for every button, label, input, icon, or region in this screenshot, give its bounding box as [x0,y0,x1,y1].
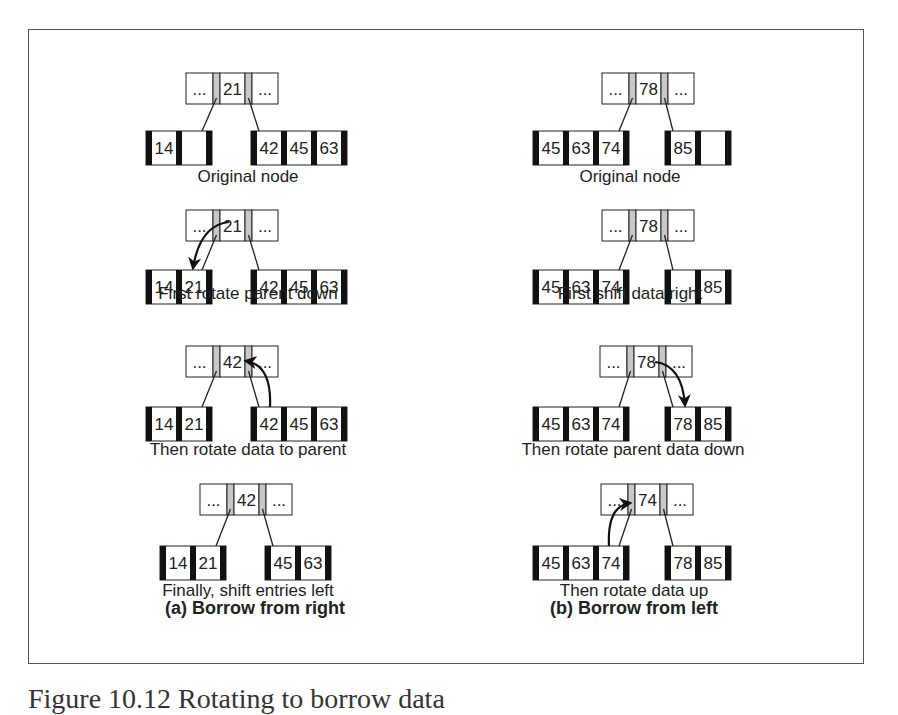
leaf-key: 21 [199,554,218,573]
ellipsis-key: ... [606,353,620,372]
left-child-node: 1421 [146,407,212,441]
right-child-node: 7885 [665,546,731,580]
right-child-node: 424563 [251,131,347,165]
ellipsis-key: ... [206,491,220,510]
right-child-node: 7885 [665,407,731,441]
parent-node: ...21... [186,210,278,241]
parent-key: 78 [637,353,656,372]
left-child-node: 456374 [533,131,629,165]
leaf-key: 85 [674,139,693,158]
ellipsis-key: ... [608,80,622,99]
step-3: ...78...4563747885 [533,346,731,441]
leaf-key: 78 [674,554,693,573]
right-child-node: 85 [665,131,731,165]
leaf-key: 14 [155,415,174,434]
step-label: Original node [197,167,298,187]
panel-title: (a) Borrow from right [165,598,345,619]
leaf-key: 45 [290,415,309,434]
ellipsis-key: ... [608,217,622,236]
step-4: ...42...14214563 [160,484,331,580]
ellipsis-key: ... [674,80,688,99]
parent-key: 42 [223,353,242,372]
panel-a: ...21...14424563...21...1421424563...42.… [146,73,347,580]
leaf-key: 78 [674,415,693,434]
parent-key: 42 [237,491,256,510]
leaf-key: 74 [602,139,621,158]
leaf-key: 14 [169,554,188,573]
leaf-key: 63 [572,415,591,434]
left-child-node: 14 [146,131,212,165]
left-child-node: 456374 [533,546,629,580]
step-label: Then rotate data to parent [150,440,347,460]
leaf-key: 74 [602,415,621,434]
leaf-key: 45 [290,139,309,158]
step-label: First shift data right [558,284,703,304]
ellipsis-key: ... [272,491,286,510]
ellipsis-key: ... [192,80,206,99]
parent-node: ...42... [200,484,292,515]
leaf-key: 14 [155,139,174,158]
ellipsis-key: ... [673,491,687,510]
leaf-key: 63 [320,139,339,158]
parent-key: 74 [638,491,657,510]
step-label: Original node [579,167,680,187]
figure-caption: Figure 10.12 Rotating to borrow data [28,683,445,715]
leaf-key: 42 [260,415,279,434]
parent-node: ...78... [602,210,694,241]
leaf-key: 85 [704,554,723,573]
leaf-key: 74 [602,554,621,573]
ellipsis-key: ... [192,217,206,236]
step-label: First rotate parent down [158,284,338,304]
leaf-key: 63 [320,415,339,434]
parent-node: ...21... [186,73,278,104]
ellipsis-key: ... [192,353,206,372]
parent-key: 78 [639,80,658,99]
step-label: Then rotate parent data down [521,440,744,460]
left-child-node: 456374 [533,407,629,441]
panel-title: (b) Borrow from left [550,598,718,619]
leaf-key: 21 [185,415,204,434]
leaf-key: 63 [304,554,323,573]
parent-key: 21 [223,217,242,236]
parent-key: 78 [639,217,658,236]
step-1: ...78...45637485 [533,73,731,165]
panel-b: ...78...45637485...78...45637485...78...… [533,73,731,580]
leaf-key: 42 [260,139,279,158]
leaf-key: 45 [274,554,293,573]
leaf-key: 85 [704,278,723,297]
left-child-node: 1421 [160,546,226,580]
right-child-node: 424563 [251,407,347,441]
leaf-key: 85 [704,415,723,434]
parent-node: ...74... [601,484,693,515]
leaf-key: 63 [572,554,591,573]
leaf-key: 45 [542,139,561,158]
parent-node: ...78... [602,73,694,104]
ellipsis-key: ... [672,353,686,372]
step-1: ...21...14424563 [146,73,347,165]
step-4: ...74...4563747885 [533,484,731,580]
leaf-key: 63 [572,139,591,158]
ellipsis-key: ... [258,217,272,236]
parent-node: ...78... [600,346,692,377]
leaf-key: 45 [542,415,561,434]
ellipsis-key: ... [258,80,272,99]
step-3: ...42...1421424563 [146,346,347,441]
parent-key: 21 [223,80,242,99]
right-child-node: 4563 [265,546,331,580]
ellipsis-key: ... [674,217,688,236]
leaf-key: 45 [542,554,561,573]
